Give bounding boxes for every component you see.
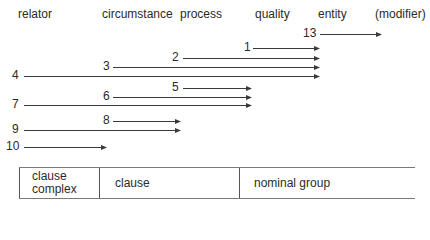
arrow-7 xyxy=(24,103,252,108)
arrow-4 xyxy=(24,74,320,79)
arrowhead-icon xyxy=(246,103,252,108)
arrowhead-icon xyxy=(246,86,252,91)
arrow-8 xyxy=(113,119,181,124)
arrowhead-icon xyxy=(376,32,382,37)
arrow-1 xyxy=(253,46,320,51)
arrowhead-icon xyxy=(314,74,320,79)
arrow-5 xyxy=(183,86,252,91)
arrowhead-icon xyxy=(314,56,320,61)
arrow-3 xyxy=(113,65,320,70)
arrow-6 xyxy=(113,95,252,100)
cell-clause-label: clause xyxy=(115,177,150,190)
arrow-9 xyxy=(24,128,181,133)
arrowhead-icon xyxy=(314,65,320,70)
arrowhead-icon xyxy=(314,46,320,51)
arrow-13 xyxy=(320,32,382,37)
arrow-10 xyxy=(24,145,107,150)
cell-clause-complex-line2: complex xyxy=(32,183,77,196)
cell-nominal-group: nominal group xyxy=(239,168,415,198)
arrowhead-icon xyxy=(175,128,181,133)
rank-table: clause complex clause nominal group xyxy=(19,167,415,199)
arrowhead-icon xyxy=(101,145,107,150)
cell-clause: clause xyxy=(99,168,239,198)
arrow-2 xyxy=(183,56,320,61)
cell-nominal-group-label: nominal group xyxy=(254,177,330,190)
arrowhead-icon xyxy=(246,95,252,100)
arrowhead-icon xyxy=(175,119,181,124)
cell-clause-complex: clause complex xyxy=(19,168,99,198)
